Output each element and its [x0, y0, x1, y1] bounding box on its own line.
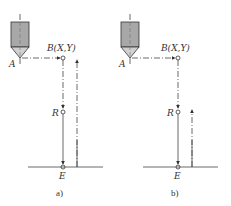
label-r: R: [166, 108, 174, 118]
point-r: [176, 110, 180, 114]
drilling-cycle-diagram: A B(X,Y) R E a) A B(X,Y) R: [0, 0, 231, 206]
label-e: E: [58, 171, 66, 181]
label-r: R: [51, 108, 59, 118]
panel-b: A B(X,Y) R E b): [118, 14, 218, 198]
label-a-start: A: [118, 59, 126, 69]
label-b: B(X,Y): [160, 43, 190, 53]
point-b: [176, 56, 180, 60]
label-a-start: A: [8, 59, 16, 69]
caption-b: b): [171, 188, 179, 198]
point-r: [61, 110, 65, 114]
caption-a: a): [56, 188, 63, 198]
label-b: B(X,Y): [46, 43, 76, 53]
label-e: E: [173, 171, 181, 181]
panel-a: A B(X,Y) R E a): [8, 14, 103, 198]
point-b: [61, 56, 65, 60]
